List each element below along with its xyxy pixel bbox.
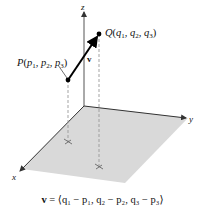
vector-diagram: z y x v P(p1, p2, p3) Q(q1, q2, q3) <box>0 0 205 212</box>
vector-v-label: v <box>87 54 92 64</box>
vector-formula-caption: v = ⟨q₁ − p₁, q₂ − p₂, q₃ − p₃⟩ <box>0 193 205 205</box>
point-q-label: Q(q1, q2, q3) <box>105 27 157 40</box>
point-q <box>97 32 102 37</box>
point-p-label: P(p1, p2, p3) <box>16 57 68 70</box>
z-axis-label: z <box>80 2 85 12</box>
y-axis-label: y <box>188 114 193 124</box>
point-p <box>66 78 71 83</box>
vector-v <box>68 37 97 80</box>
xy-plane <box>22 106 188 183</box>
caption-formula: = ⟨q₁ − p₁, q₂ − p₂, q₃ − p₃⟩ <box>47 194 164 205</box>
x-axis-label: x <box>11 172 16 182</box>
